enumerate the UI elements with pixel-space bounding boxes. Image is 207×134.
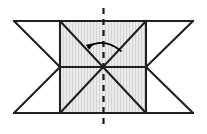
figure-container	[0, 0, 207, 134]
geometry-diagram	[0, 0, 207, 134]
